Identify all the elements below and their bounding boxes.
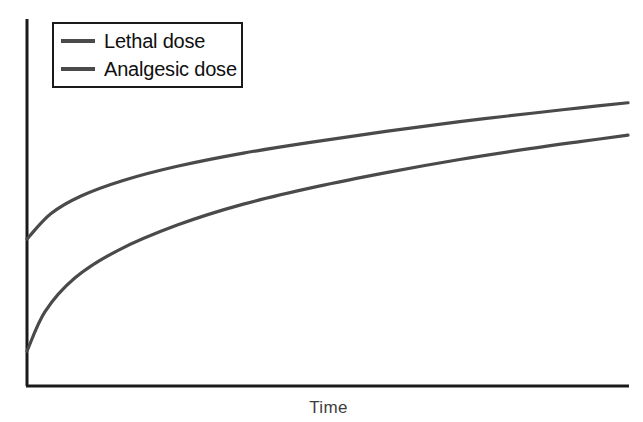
legend-swatch-lethal-dose: [61, 39, 95, 43]
series-line-analgesic-dose: [27, 135, 628, 351]
legend-label-analgesic-dose: Analgesic dose: [104, 59, 237, 79]
chart-legend: Lethal dose Analgesic dose: [52, 22, 243, 88]
legend-label-lethal-dose: Lethal dose: [104, 31, 205, 51]
legend-item-analgesic-dose: Analgesic dose: [61, 55, 241, 83]
x-axis-label: Time: [0, 398, 643, 418]
x-axis-label-text: Time: [309, 398, 347, 418]
legend-swatch-analgesic-dose: [61, 67, 95, 71]
chart-figure: Lethal dose Analgesic dose Time: [0, 0, 643, 422]
legend-item-lethal-dose: Lethal dose: [61, 27, 241, 55]
series-line-lethal-dose: [27, 103, 628, 239]
series-group: [27, 103, 628, 351]
